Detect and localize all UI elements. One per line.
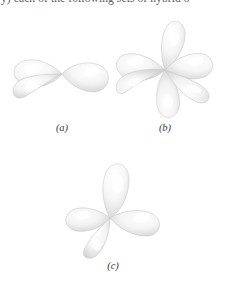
lobe-right — [110, 211, 159, 237]
caption-b: (b) — [110, 122, 220, 133]
orbital-diagram-c — [52, 160, 174, 260]
clipped-caption-text: y) each of the following sets of hybrid … — [1, 0, 190, 4]
caption-a: (a) — [6, 122, 118, 133]
lobe-right — [62, 63, 108, 92]
lobe-up — [103, 164, 129, 218]
orbital-figure-b: (b) — [110, 18, 220, 140]
caption-c: (c) — [52, 260, 174, 271]
figure-page: y) each of the following sets of hybrid … — [0, 0, 225, 283]
orbital-diagram-a — [6, 30, 118, 116]
orbital-figure-a: (a) — [6, 30, 118, 140]
clipped-caption-line: y) each of the following sets of hybrid … — [0, 0, 225, 9]
orbital-figure-c: (c) — [52, 160, 174, 278]
orbital-diagram-b — [110, 18, 220, 122]
